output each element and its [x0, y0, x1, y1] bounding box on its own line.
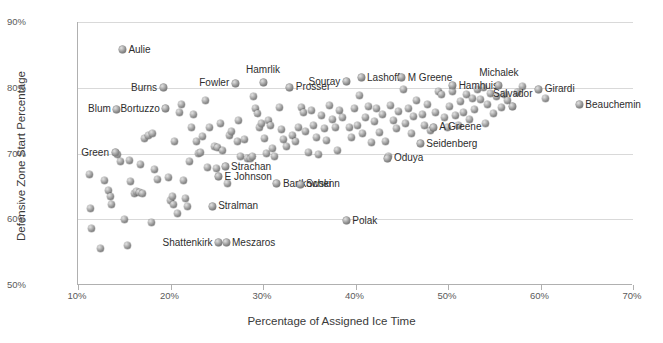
data-point	[254, 110, 261, 117]
data-point	[154, 176, 161, 183]
data-point	[359, 130, 366, 137]
x-tick-label: 20%	[147, 290, 193, 301]
data-point	[204, 164, 211, 171]
data-point-hamrlik	[260, 79, 267, 86]
data-point-aulie	[119, 46, 126, 53]
data-point-stralman	[209, 203, 216, 210]
point-label-meszaros: Meszaros	[232, 238, 275, 248]
data-point	[413, 97, 420, 104]
data-point	[471, 106, 478, 113]
data-point	[217, 120, 224, 127]
point-label-stralman: Stralman	[218, 201, 258, 211]
data-point	[452, 112, 459, 119]
data-point	[182, 195, 189, 202]
data-point	[432, 109, 439, 116]
data-point	[186, 158, 193, 165]
data-point	[498, 104, 505, 111]
point-label-seidenberg: Seidenberg	[426, 139, 477, 149]
data-point	[283, 143, 290, 150]
data-point	[176, 109, 183, 116]
data-point-a-greene	[430, 124, 437, 131]
data-point	[332, 124, 339, 131]
data-point	[484, 101, 491, 108]
data-point-oduya	[384, 155, 391, 162]
data-point-blum	[113, 106, 120, 113]
data-point	[292, 138, 299, 145]
data-point-fowler	[232, 80, 239, 87]
y-tick-label: 90%	[0, 16, 26, 27]
data-point	[228, 128, 235, 135]
data-point	[148, 219, 155, 226]
data-point	[261, 135, 268, 142]
gridline-y	[78, 22, 633, 23]
data-point	[87, 205, 94, 212]
data-point	[390, 117, 397, 124]
data-point	[315, 151, 322, 158]
x-tick-label: 70%	[609, 290, 655, 301]
y-axis-title: Defensive Zone Start Percentage	[15, 31, 27, 281]
data-point	[400, 86, 407, 93]
point-label-hamrlik: Hamrlik	[246, 65, 280, 75]
data-point	[362, 114, 369, 121]
data-point-prosser	[286, 84, 293, 91]
data-point	[405, 105, 412, 112]
data-point	[213, 165, 220, 172]
point-label-bortuzzo: Bortuzzo	[120, 104, 159, 114]
data-point	[241, 136, 248, 143]
data-point	[169, 193, 176, 200]
data-point-seidenberg	[417, 140, 424, 147]
data-point-strachan	[222, 163, 229, 170]
x-tick-label: 10%	[54, 290, 100, 301]
data-point	[184, 203, 191, 210]
point-label-souray: Souray	[309, 77, 341, 87]
data-point-e-johnson	[215, 173, 222, 180]
data-point	[151, 166, 158, 173]
data-point	[86, 171, 93, 178]
data-point-green	[112, 149, 119, 156]
data-point-burns	[160, 84, 167, 91]
data-point	[295, 124, 302, 131]
data-point	[139, 190, 146, 197]
data-point	[174, 210, 181, 217]
data-point	[199, 133, 206, 140]
data-point	[402, 120, 409, 127]
x-tick-label: 30%	[239, 290, 285, 301]
data-point-lashoff	[358, 74, 365, 81]
data-point	[356, 92, 363, 99]
point-label-beauchemin: Beauchemin	[585, 100, 641, 110]
data-point	[482, 120, 489, 127]
data-point	[542, 95, 549, 102]
data-point	[469, 95, 476, 102]
data-point	[178, 101, 185, 108]
x-tick-label: 50%	[424, 290, 470, 301]
data-point	[137, 161, 144, 168]
data-point	[460, 109, 467, 116]
gridline-y	[78, 154, 633, 155]
data-point	[410, 113, 417, 120]
data-point	[278, 126, 285, 133]
data-point	[334, 147, 341, 154]
point-label-schenn: Schenn	[306, 179, 340, 189]
data-point	[346, 124, 353, 131]
data-point	[235, 117, 242, 124]
data-point	[419, 111, 426, 118]
data-point	[234, 138, 241, 145]
data-point	[302, 128, 309, 135]
data-point	[373, 105, 380, 112]
data-point	[121, 216, 128, 223]
data-point	[108, 201, 115, 208]
data-point-salvador	[509, 103, 516, 110]
data-point	[269, 145, 276, 152]
data-point	[219, 147, 226, 154]
data-point	[249, 153, 256, 160]
data-point	[382, 138, 389, 145]
data-point-girardi	[535, 86, 542, 93]
data-point	[393, 125, 400, 132]
data-point	[97, 245, 104, 252]
data-point	[180, 177, 187, 184]
point-label-green: Green	[81, 148, 109, 158]
data-point	[117, 158, 124, 165]
data-point	[446, 103, 453, 110]
data-point	[276, 104, 283, 111]
data-point-schenn	[297, 181, 304, 188]
